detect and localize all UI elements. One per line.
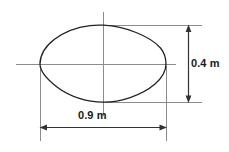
width-dimension-label: 0.9 m xyxy=(78,109,107,121)
height-arrowhead-bottom xyxy=(186,96,192,104)
width-dimension-line-group xyxy=(40,125,168,131)
dimension-drawing-figure: 0.4 m 0.9 m xyxy=(0,0,229,152)
width-arrowhead-right xyxy=(160,125,168,131)
figure-canvas xyxy=(0,0,229,152)
height-dimension-label: 0.4 m xyxy=(191,57,220,69)
